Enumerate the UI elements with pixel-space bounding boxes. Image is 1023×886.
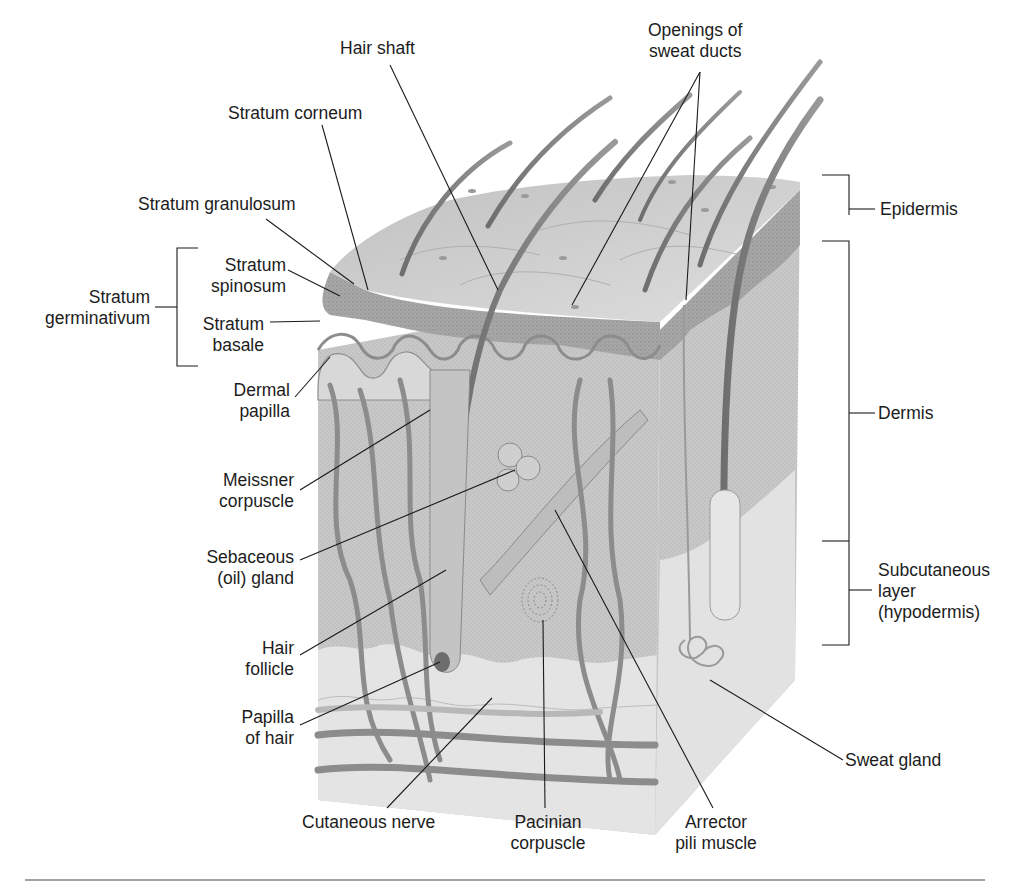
label-text: Stratum: [196, 255, 286, 276]
label-text: corpuscle: [180, 491, 294, 512]
label-stratum-basale: Stratum basale: [196, 314, 264, 356]
label-dermis: Dermis: [878, 403, 933, 424]
label-text: germinativum: [20, 308, 150, 329]
label-text: Hair shaft: [340, 38, 415, 59]
label-text: Openings of: [648, 20, 742, 41]
label-text: follicle: [200, 659, 294, 680]
label-pacinian-corpuscle: Pacinian corpuscle: [502, 812, 594, 854]
label-openings-of-sweat-ducts: Openings of sweat ducts: [648, 20, 742, 62]
label-text: Stratum: [196, 314, 264, 335]
label-text: Dermal: [200, 380, 290, 401]
label-text: (oil) gland: [180, 568, 294, 589]
label-text: spinosum: [196, 276, 286, 297]
label-text: corpuscle: [502, 833, 594, 854]
label-stratum-granulosum: Stratum granulosum: [138, 194, 296, 215]
label-text: Dermis: [878, 403, 933, 424]
label-cutaneous-nerve: Cutaneous nerve: [302, 812, 435, 833]
label-subcutaneous-layer: Subcutaneous layer (hypodermis): [878, 560, 990, 623]
label-stratum-germinativum: Stratum germinativum: [20, 287, 150, 329]
label-stratum-spinosum: Stratum spinosum: [196, 255, 286, 297]
label-meissner-corpuscle: Meissner corpuscle: [180, 470, 294, 512]
label-text: Arrector: [668, 812, 764, 833]
label-sweat-gland: Sweat gland: [845, 750, 941, 771]
label-sebaceous-gland: Sebaceous (oil) gland: [180, 547, 294, 589]
label-text: layer: [878, 581, 990, 602]
label-dermal-papilla: Dermal papilla: [200, 380, 290, 422]
label-text: (hypodermis): [878, 602, 990, 623]
label-papilla-of-hair: Papilla of hair: [200, 707, 294, 749]
label-text: Sweat gland: [845, 750, 941, 771]
label-text: Stratum corneum: [228, 103, 362, 124]
label-text: sweat ducts: [648, 41, 742, 62]
label-text: Stratum: [20, 287, 150, 308]
label-text: Pacinian: [502, 812, 594, 833]
label-epidermis: Epidermis: [880, 199, 958, 220]
label-text: Papilla: [200, 707, 294, 728]
label-text: of hair: [200, 728, 294, 749]
label-text: pili muscle: [668, 833, 764, 854]
label-text: Epidermis: [880, 199, 958, 220]
label-arrector-pili-muscle: Arrector pili muscle: [668, 812, 764, 854]
label-text: papilla: [200, 401, 290, 422]
label-text: basale: [196, 335, 264, 356]
label-text: Cutaneous nerve: [302, 812, 435, 833]
label-hair-shaft: Hair shaft: [340, 38, 415, 59]
label-stratum-corneum: Stratum corneum: [228, 103, 362, 124]
label-hair-follicle: Hair follicle: [200, 638, 294, 680]
label-text: Hair: [200, 638, 294, 659]
label-text: Meissner: [180, 470, 294, 491]
label-text: Sebaceous: [180, 547, 294, 568]
label-text: Stratum granulosum: [138, 194, 296, 215]
label-text: Subcutaneous: [878, 560, 990, 581]
